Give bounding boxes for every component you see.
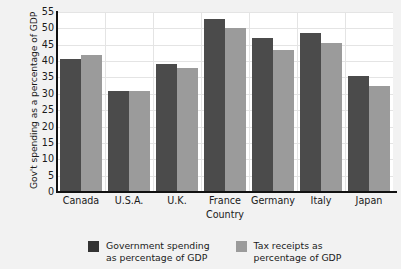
bar-group bbox=[60, 12, 102, 192]
gridline-vertical bbox=[249, 12, 250, 192]
x-axis-tick-label: U.K. bbox=[167, 195, 186, 207]
bar-group bbox=[204, 12, 246, 192]
bar-receipts bbox=[81, 55, 102, 192]
y-axis-tick-label: 25 bbox=[36, 105, 54, 115]
y-axis-tick-label: 55 bbox=[36, 7, 54, 17]
bar-receipts bbox=[225, 28, 246, 192]
chart-legend: Government spending as percentage of GDP… bbox=[88, 240, 341, 263]
bar-receipts bbox=[369, 86, 390, 192]
bar-spending bbox=[108, 91, 129, 192]
bar-spending bbox=[300, 33, 321, 192]
bar-group bbox=[348, 12, 390, 192]
bar-spending bbox=[156, 64, 177, 192]
legend-item[interactable]: Government spending as percentage of GDP bbox=[88, 240, 210, 263]
bar-group bbox=[156, 12, 198, 192]
gridline-vertical bbox=[297, 12, 298, 192]
gridline-vertical bbox=[201, 12, 202, 192]
x-axis-tick-label: Japan bbox=[356, 195, 383, 207]
x-axis-tick-label: U.S.A. bbox=[115, 195, 144, 207]
legend-swatch-icon bbox=[236, 241, 247, 252]
bar-receipts bbox=[321, 43, 342, 192]
bar-spending bbox=[348, 76, 369, 192]
bar-spending bbox=[204, 19, 225, 192]
x-axis-tick-labels: CanadaU.S.A.U.K.FranceGermanyItalyJapan bbox=[57, 195, 393, 209]
gridline-vertical bbox=[153, 12, 154, 192]
y-axis-tick-label: 40 bbox=[36, 56, 54, 66]
y-axis-tick-label: 30 bbox=[36, 89, 54, 99]
bar-receipts bbox=[177, 68, 198, 192]
bar-chart-figure: Gov't spending as a percentage of GDP 05… bbox=[0, 0, 401, 269]
y-axis-tick-label: 50 bbox=[36, 23, 54, 33]
x-axis-tick-label: Canada bbox=[63, 195, 100, 207]
y-axis-tick-label: 15 bbox=[36, 138, 54, 148]
y-axis-tick-label: 10 bbox=[36, 154, 54, 164]
bar-receipts bbox=[129, 91, 150, 192]
bar-spending bbox=[60, 59, 81, 192]
y-axis-tick-label: 0 bbox=[36, 187, 54, 197]
y-axis-tick-label: 45 bbox=[36, 40, 54, 50]
gridline-vertical bbox=[345, 12, 346, 192]
bar-spending bbox=[252, 38, 273, 192]
bar-group bbox=[252, 12, 294, 192]
x-axis-title: Country bbox=[57, 209, 393, 220]
y-axis-tick-label: 20 bbox=[36, 122, 54, 132]
legend-label: Tax receipts as percentage of GDP bbox=[254, 240, 342, 263]
y-axis-tick-label: 5 bbox=[36, 171, 54, 181]
bar-group bbox=[300, 12, 342, 192]
y-axis-line bbox=[56, 11, 58, 193]
x-axis-line bbox=[56, 191, 397, 193]
plot-area bbox=[57, 12, 393, 192]
plot-canvas bbox=[57, 12, 393, 192]
y-axis-tick-label: 35 bbox=[36, 72, 54, 82]
legend-item[interactable]: Tax receipts as percentage of GDP bbox=[236, 240, 342, 263]
bar-receipts bbox=[273, 50, 294, 192]
legend-swatch-icon bbox=[88, 241, 99, 252]
y-axis-tick-labels: 0510152025303540455055 bbox=[30, 12, 54, 192]
x-axis-tick-label: Germany bbox=[251, 195, 295, 207]
x-axis-tick-label: Italy bbox=[311, 195, 332, 207]
gridline-vertical bbox=[105, 12, 106, 192]
bar-group bbox=[108, 12, 150, 192]
legend-label: Government spending as percentage of GDP bbox=[106, 240, 210, 263]
x-axis-tick-label: France bbox=[209, 195, 241, 207]
